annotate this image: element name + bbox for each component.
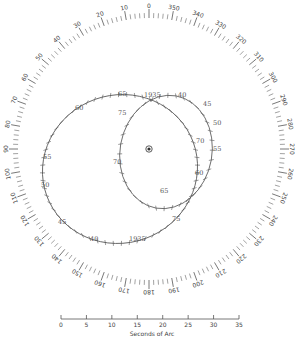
dial-tick <box>222 36 225 40</box>
dial-tick <box>278 172 287 174</box>
dial-label: 110 <box>9 191 20 204</box>
dial-label: 230 <box>253 235 266 248</box>
dial-tick <box>42 59 49 65</box>
dial-tick <box>279 163 284 164</box>
dial-tick <box>17 181 22 182</box>
scale-tick-label: 35 <box>235 321 243 328</box>
orbit-tick <box>193 192 197 195</box>
dial-tick <box>65 252 68 256</box>
dial-tick <box>176 277 177 282</box>
dial-label: 180 <box>143 289 155 296</box>
orbit-tick <box>198 186 202 189</box>
dial-tick <box>249 59 256 65</box>
dial-tick <box>16 176 21 177</box>
dial-tick <box>278 125 287 127</box>
dial-tick <box>262 79 270 84</box>
outer-orbit-label: 1935 <box>129 235 146 243</box>
outer-orbit-label: 45 <box>203 100 211 108</box>
dial-tick <box>274 107 279 109</box>
dial-tick <box>218 34 221 38</box>
dial-tick <box>206 27 208 31</box>
dial-tick <box>36 73 40 76</box>
dial-tick <box>125 278 127 287</box>
dial-label: 80 <box>3 119 11 128</box>
dial-tick <box>27 206 31 208</box>
dial-label: 120 <box>18 214 30 228</box>
scale-tick-label: 5 <box>85 321 89 328</box>
orbit-tick <box>118 144 123 145</box>
dial-tick <box>23 98 28 100</box>
dial-tick <box>275 185 280 186</box>
dial-tick <box>277 176 282 177</box>
dial-tick <box>94 269 96 274</box>
dial-tick <box>69 39 72 43</box>
dial-tick <box>29 85 33 87</box>
dial-tick <box>89 267 91 271</box>
orbit-tick <box>74 229 77 233</box>
dial-tick <box>16 121 21 122</box>
dial-tick <box>181 17 182 22</box>
dial-label: 270 <box>289 143 296 155</box>
dial-tick <box>262 215 270 220</box>
dial-label: 20 <box>95 9 105 18</box>
dial-tick <box>42 233 49 239</box>
inner-orbit-label: 70 <box>196 137 204 145</box>
dial-tick <box>135 14 136 19</box>
dial-tick <box>194 17 197 25</box>
dial-label: 250 <box>279 192 290 205</box>
dial-tick <box>277 121 282 122</box>
scale-tick-label: 30 <box>210 321 218 328</box>
dial-tick <box>279 167 284 168</box>
outer-orbit-label: 60 <box>75 104 83 112</box>
dial-tick <box>58 48 61 52</box>
outer-orbit-label: 40 <box>90 235 98 243</box>
dial-tick <box>34 77 38 80</box>
dial-tick <box>270 98 275 100</box>
dial-tick <box>29 211 33 213</box>
orbit-tick <box>194 157 199 158</box>
dial-tick <box>265 211 269 213</box>
dial-tick <box>198 270 200 275</box>
orbit-tick <box>54 127 58 130</box>
outer-orbit-label: 45 <box>58 218 66 226</box>
dial-tick <box>276 181 281 182</box>
dial-tick <box>252 65 256 68</box>
dial-tick <box>226 39 229 43</box>
orbit-tick <box>180 121 184 124</box>
dial-tick <box>252 230 256 233</box>
orbit-tick <box>50 134 54 136</box>
orbit-tick <box>156 206 157 211</box>
dial-tick <box>18 112 23 113</box>
dial-tick <box>185 275 186 280</box>
dial-tick <box>28 215 36 220</box>
dial-tick <box>14 130 19 131</box>
dial-label: 0 <box>147 2 151 9</box>
dial-tick <box>121 277 122 282</box>
dial-tick <box>176 16 177 21</box>
dial-tick <box>101 272 104 280</box>
scale-caption: Seconds of Arc <box>130 330 175 337</box>
dial-tick <box>14 167 19 168</box>
orbit-tick <box>169 109 172 113</box>
dial-tick <box>18 185 23 186</box>
dial-label: 100 <box>3 168 12 181</box>
dial-tick <box>202 269 204 274</box>
dial-tick <box>98 23 100 28</box>
dial-tick <box>279 130 284 131</box>
scale-bar: 05101520253035 <box>59 315 243 328</box>
dial-tick <box>258 73 262 76</box>
dial-tick <box>246 237 250 240</box>
dial-label: 240 <box>268 214 280 228</box>
scale-tick-label: 0 <box>59 321 63 328</box>
orbit-tick <box>65 114 68 118</box>
dial-tick <box>233 249 239 256</box>
dial-tick <box>42 230 46 233</box>
dial-tick <box>58 246 61 250</box>
dial-tick <box>69 255 72 259</box>
orbit-tick <box>182 208 186 211</box>
dial-tick <box>230 252 233 256</box>
dial-tick <box>11 125 20 127</box>
dial-tick <box>77 260 80 264</box>
dial-tick <box>206 267 208 271</box>
dial-tick <box>240 243 243 247</box>
